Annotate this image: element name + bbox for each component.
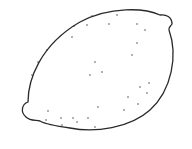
lemon-dot xyxy=(87,117,88,118)
lemon-dot xyxy=(127,96,128,97)
lemon-icon xyxy=(0,0,192,149)
lemon-dot xyxy=(94,61,95,62)
lemon-dot xyxy=(86,24,87,25)
lemon-dot xyxy=(37,61,38,62)
lemon-dot xyxy=(131,54,132,55)
lemon-dot xyxy=(91,15,92,16)
lemon-outline xyxy=(22,10,173,130)
lemon-dot xyxy=(136,23,137,24)
lemon-dot xyxy=(46,49,47,50)
lemon-dot xyxy=(116,14,117,15)
lemon-dot xyxy=(73,25,74,26)
lemon-dot xyxy=(72,117,73,118)
lemon-dot xyxy=(146,92,147,93)
lemon-dot xyxy=(101,71,102,72)
lemon-dot xyxy=(123,109,124,110)
lemon-dot xyxy=(97,106,98,107)
lemon-dot xyxy=(139,86,140,87)
lemon-dot xyxy=(76,121,77,122)
lemon-dot xyxy=(94,126,95,127)
lemon-illustration xyxy=(0,0,192,149)
lemon-dot xyxy=(60,117,61,118)
lemon-dot xyxy=(47,110,48,111)
lemon-dot xyxy=(144,29,145,30)
lemon-dot xyxy=(71,36,72,37)
lemon-dot xyxy=(148,82,149,83)
lemon-dot xyxy=(61,124,62,125)
lemon-dot xyxy=(108,23,109,24)
lemon-dot xyxy=(136,42,137,43)
lemon-dot xyxy=(89,74,90,75)
lemon-dot xyxy=(137,103,138,104)
lemon-dot xyxy=(31,74,32,75)
lemon-dot xyxy=(45,119,46,120)
